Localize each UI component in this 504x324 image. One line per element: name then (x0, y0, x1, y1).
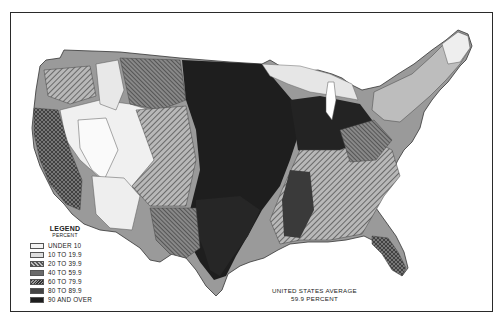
legend-row: 60 TO 79.9 (30, 277, 110, 286)
legend-swatch-20-39 (30, 261, 44, 267)
legend-swatch-80-89 (30, 288, 44, 294)
legend-swatch-90-over (30, 297, 44, 303)
note-line-2: 59.9 PERCENT (272, 295, 357, 303)
legend-swatch-under-10 (30, 243, 44, 249)
legend-row: 10 TO 19.9 (30, 250, 110, 259)
legend-label: 10 TO 19.9 (48, 251, 82, 258)
legend-row: 40 TO 59.9 (30, 268, 110, 277)
legend-row: 80 TO 89.9 (30, 286, 110, 295)
legend-label: 40 TO 59.9 (48, 269, 82, 276)
legend-row: 20 TO 39.9 (30, 259, 110, 268)
us-average-note: UNITED STATES AVERAGE 59.9 PERCENT (272, 287, 357, 303)
legend-label: 60 TO 79.9 (48, 278, 82, 285)
legend-label: 80 TO 89.9 (48, 287, 82, 294)
legend-label: 20 TO 39.9 (48, 260, 82, 267)
legend-label: UNDER 10 (48, 242, 81, 249)
map-legend: LEGEND PERCENT UNDER 10 10 TO 19.9 20 TO… (30, 225, 110, 304)
legend-swatch-60-79 (30, 279, 44, 285)
legend-label: 90 AND OVER (48, 296, 92, 303)
note-line-1: UNITED STATES AVERAGE (272, 287, 357, 295)
legend-title: LEGEND (20, 225, 110, 232)
region-montana-wyoming (120, 58, 186, 110)
legend-row: 90 AND OVER (30, 295, 110, 304)
legend-swatch-10-19 (30, 252, 44, 258)
legend-subtitle: PERCENT (20, 232, 110, 238)
legend-row: UNDER 10 (30, 241, 110, 250)
legend-swatch-40-59 (30, 270, 44, 276)
